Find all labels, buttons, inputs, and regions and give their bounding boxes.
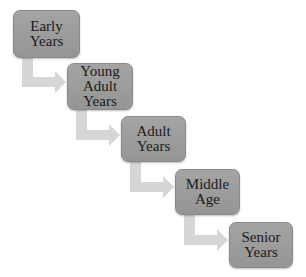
stage-young-adult-years: Young Adult Years <box>67 63 133 110</box>
stage-early-years: Early Years <box>13 10 80 58</box>
stage-senior-years: Senior Years <box>229 222 293 268</box>
stage-adult-years: Adult Years <box>121 116 186 162</box>
stage-label: Adult Years <box>136 124 170 154</box>
stage-label: Middle Age <box>186 177 229 207</box>
stage-label: Young Adult Years <box>80 64 119 109</box>
stage-label: Senior Years <box>241 230 280 260</box>
stage-middle-age: Middle Age <box>175 169 240 215</box>
stage-label: Early Years <box>30 19 63 49</box>
life-stages-diagram: Early Years Young Adult Years Adult Year… <box>0 0 306 277</box>
